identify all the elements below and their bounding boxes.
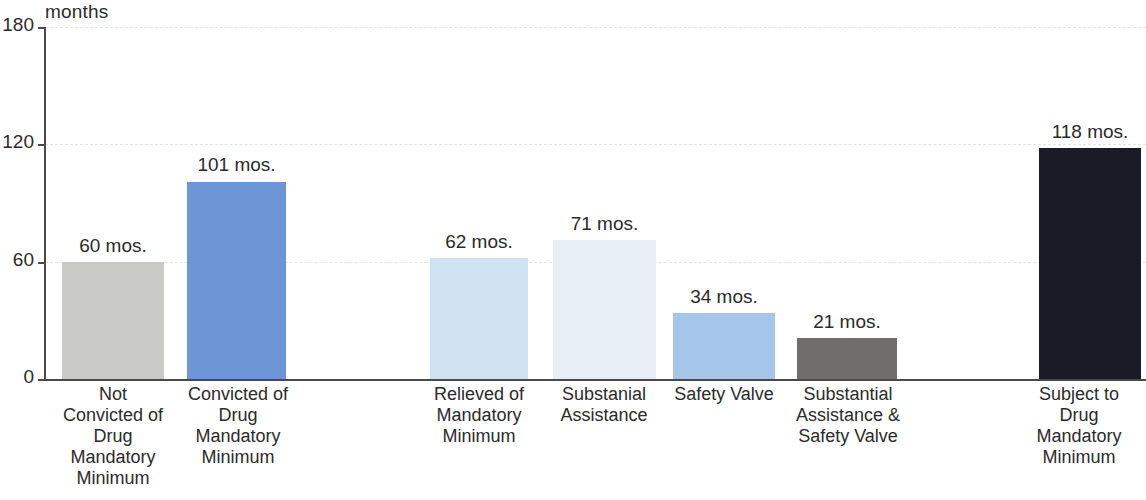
bar-value-label: 60 mos. — [79, 236, 147, 255]
bar-group: 101 mos. — [187, 0, 286, 379]
category-label-line: Convicted of — [174, 384, 302, 405]
category-label-line: Not — [48, 384, 178, 405]
category-label-line: Safety Valve — [660, 384, 788, 405]
category-label: Subject toDrugMandatoryMinimum — [1012, 384, 1146, 468]
category-label: Relieved ofMandatoryMinimum — [414, 384, 544, 447]
bar-value-label: 62 mos. — [445, 232, 513, 251]
category-label-line: Minimum — [1012, 447, 1146, 468]
y-axis-tick-label: 60 — [0, 249, 34, 271]
bar-group: 62 mos. — [430, 0, 528, 379]
bar-group: 60 mos. — [62, 0, 164, 379]
category-label: Convicted ofDrugMandatoryMinimum — [174, 384, 302, 468]
bar-value-label: 118 mos. — [1052, 122, 1129, 141]
category-label: NotConvicted ofDrugMandatoryMinimum — [48, 384, 178, 489]
category-label-line: Drug — [1012, 405, 1146, 426]
category-label-line: Mandatory — [414, 405, 544, 426]
category-label-line: Drug — [174, 405, 302, 426]
bar-group: 71 mos. — [553, 0, 656, 379]
bar-value-label: 101 mos. — [197, 155, 275, 174]
category-label-line: Mandatory — [174, 426, 302, 447]
category-label-line: Subject to — [1012, 384, 1146, 405]
bar-chart: months 180120600 60 mos.101 mos.62 mos.7… — [0, 0, 1146, 500]
bar — [187, 182, 286, 380]
category-label-line: Assistance & — [784, 405, 912, 426]
y-axis-tick-label: 120 — [0, 131, 34, 153]
bar — [553, 240, 656, 379]
category-label-line: Relieved of — [414, 384, 544, 405]
category-label-line: Drug — [48, 426, 178, 447]
y-axis-tick-label: 180 — [0, 14, 34, 36]
category-label-line: Substantial — [784, 384, 912, 405]
bar — [430, 258, 528, 379]
category-label-line: Minimum — [414, 426, 544, 447]
category-label-line: Assistance — [540, 405, 668, 426]
bar — [797, 338, 897, 379]
category-label: SubstantialAssistance &Safety Valve — [784, 384, 912, 447]
category-label-line: Mandatory — [48, 447, 178, 468]
category-label: Safety Valve — [660, 384, 788, 405]
bar-value-label: 34 mos. — [690, 287, 758, 306]
y-axis-tick-label: 0 — [0, 366, 34, 388]
category-label-line: Minimum — [174, 447, 302, 468]
bar-value-label: 71 mos. — [571, 214, 639, 233]
bar — [673, 313, 775, 379]
bar-value-label: 21 mos. — [813, 312, 881, 331]
y-axis-line — [44, 27, 46, 380]
category-label-line: Minimum — [48, 468, 178, 489]
bar — [62, 262, 164, 379]
x-axis-line — [44, 379, 1146, 381]
category-label-line: Convicted of — [48, 405, 178, 426]
category-label-line: Mandatory — [1012, 426, 1146, 447]
category-label: SubstanialAssistance — [540, 384, 668, 426]
category-label-line: Safety Valve — [784, 426, 912, 447]
category-label-line: Substanial — [540, 384, 668, 405]
bar-group: 21 mos. — [797, 0, 897, 379]
bar-group: 118 mos. — [1039, 0, 1141, 379]
bar — [1039, 148, 1141, 379]
bar-group: 34 mos. — [673, 0, 775, 379]
